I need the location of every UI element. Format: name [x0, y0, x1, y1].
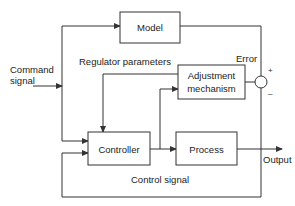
controller-block: Controller	[88, 132, 150, 165]
adjustment-label-line2: mechanism	[187, 83, 236, 94]
regulator-parameters-label: Regulator parameters	[79, 56, 171, 67]
adjustment-mechanism-block: Adjustment mechanism	[178, 65, 245, 99]
control-branch-wire	[160, 89, 178, 149]
command-signal-label-line2: signal	[10, 75, 35, 86]
regulator-parameters-wire	[103, 74, 178, 132]
wires	[33, 26, 282, 197]
controller-label: Controller	[98, 144, 139, 155]
output-label: Output	[263, 154, 292, 165]
plus-sign: +	[268, 66, 273, 75]
process-label: Process	[189, 144, 224, 155]
minus-sign: –	[268, 89, 273, 98]
command-signal-label-line1: Command	[10, 64, 54, 75]
error-summing-junction	[255, 76, 267, 88]
process-block: Process	[176, 132, 237, 165]
error-label: Error	[236, 53, 257, 64]
model-block: Model	[120, 12, 180, 43]
control-signal-label: Control signal	[131, 174, 189, 185]
mrac-diagram: Model Adjustment mechanism Controller Pr…	[0, 0, 295, 206]
model-label: Model	[137, 22, 163, 33]
adjustment-label-line1: Adjustment	[188, 70, 236, 81]
